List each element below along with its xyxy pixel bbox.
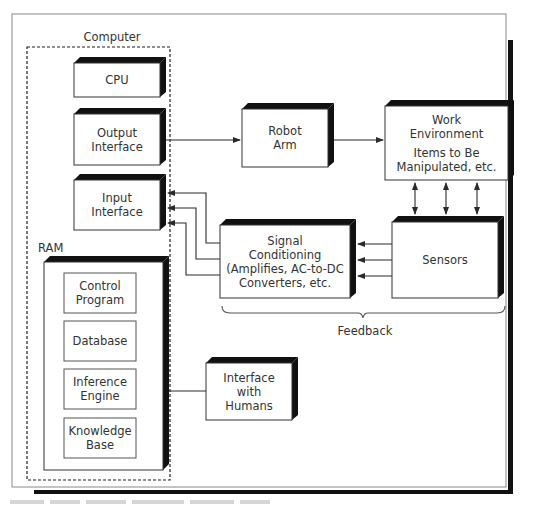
robot-arm-label: Robot Arm (242, 109, 328, 167)
sensors-label: Sensors (392, 222, 498, 298)
interface-humans-label: Interface with Humans (206, 363, 292, 420)
inference-engine-label: Inference Engine (64, 369, 136, 409)
cpu-label: CPU (74, 63, 160, 97)
ram-label: RAM (38, 241, 63, 255)
knowledge-base-label: Knowledge Base (64, 418, 136, 458)
database-label: Database (64, 321, 136, 361)
control-program-label: Control Program (64, 273, 136, 313)
clipped-caption (10, 500, 310, 506)
output-interface-label: Output Interface (74, 114, 160, 165)
computer-group-label: Computer (82, 30, 142, 44)
signal-conditioning-label: Signal Conditioning (Amplifies, AC-to-DC… (220, 225, 350, 298)
input-interface-label: Input Interface (74, 180, 160, 230)
feedback-label: Feedback (325, 324, 405, 338)
work-environment-label: Work Environment Items to Be Manipulated… (385, 106, 508, 180)
